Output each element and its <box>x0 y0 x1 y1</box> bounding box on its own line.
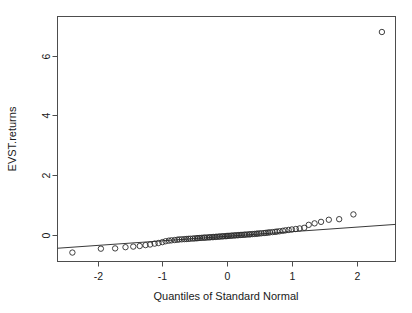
y-tick-label: 0 <box>40 232 52 238</box>
y-tick-label: 4 <box>40 112 52 118</box>
y-tick-label: 2 <box>40 172 52 178</box>
y-axis-title: EVST.returns <box>6 106 18 171</box>
x-tick-label: 0 <box>225 270 231 282</box>
qq-plot-figure: -2-1012 0246 Quantiles of Standard Norma… <box>0 0 412 313</box>
x-tick-label: -2 <box>94 270 103 282</box>
plot-canvas: -2-1012 0246 Quantiles of Standard Norma… <box>0 0 412 313</box>
y-tick-label: 6 <box>40 53 52 59</box>
x-tick-label: 2 <box>355 270 361 282</box>
x-tick-label: -1 <box>158 270 167 282</box>
x-tick-label: 1 <box>290 270 296 282</box>
figure-background <box>0 0 412 313</box>
x-axis-title: Quantiles of Standard Normal <box>154 290 299 302</box>
